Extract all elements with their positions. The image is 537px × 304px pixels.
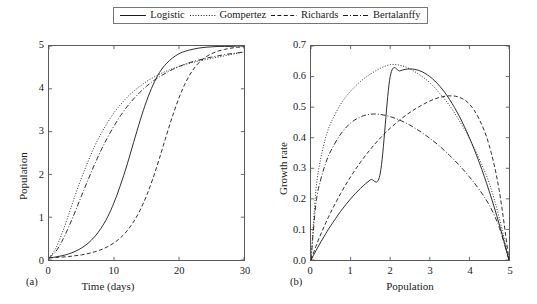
figure: LogisticGompertezRichardsBertalanffy 012… <box>0 0 537 304</box>
y-tick-label: 0.5 <box>293 101 306 112</box>
x-tick-label: 4 <box>467 266 472 277</box>
plot-curves-b <box>311 46 509 260</box>
curve-bertalanffy <box>49 52 244 258</box>
y-axis-title-a: Population <box>18 152 29 200</box>
y-tick-label: 4 <box>39 83 44 94</box>
y-axis-title-b: Growth rate <box>278 142 289 195</box>
plot-area-a <box>48 45 245 261</box>
x-tick-label: 5 <box>507 266 512 277</box>
x-axis-title-b: Population <box>386 281 434 292</box>
y-tick-label: 0.1 <box>293 225 306 236</box>
curve-richards <box>49 47 244 258</box>
curve-logistic <box>311 68 509 260</box>
x-tick-label: 3 <box>427 266 432 277</box>
y-tick-label: 0.0 <box>293 256 306 267</box>
x-tick-label: 1 <box>347 266 352 277</box>
curve-gompertez <box>49 52 244 258</box>
panel-label-b: (b) <box>290 277 302 288</box>
panel-label-a: (a) <box>26 277 38 288</box>
curve-logistic <box>49 46 244 258</box>
x-axis-title-a: Time (days) <box>81 281 134 292</box>
y-tick-label: 0.4 <box>293 132 306 143</box>
x-tick-label: 2 <box>387 266 392 277</box>
x-tick-label: 0 <box>307 266 312 277</box>
y-tick-label: 3 <box>39 126 44 137</box>
y-tick-label: 5 <box>39 40 44 51</box>
y-tick-label: 1 <box>39 213 44 224</box>
x-tick-label: 20 <box>174 266 185 277</box>
x-tick-label: 0 <box>45 266 50 277</box>
x-tick-label: 30 <box>240 266 251 277</box>
y-tick-label: 0.2 <box>293 194 306 205</box>
plot-area-b <box>310 45 510 261</box>
y-tick-label: 0.7 <box>293 40 306 51</box>
y-tick-label: 0.6 <box>293 71 306 82</box>
y-tick-label: 0.3 <box>293 163 306 174</box>
plot-curves-a <box>49 46 244 260</box>
y-tick-label: 2 <box>39 169 44 180</box>
x-tick-label: 10 <box>108 266 119 277</box>
panel-b: 0.00.10.20.30.40.50.60.7 012345 Growth r… <box>268 0 537 304</box>
curve-bertalanffy <box>311 114 509 260</box>
curve-richards <box>311 96 509 260</box>
panel-a: 012345 0102030 Population Time (days) (a… <box>0 0 268 304</box>
y-tick-label: 0 <box>39 256 44 267</box>
